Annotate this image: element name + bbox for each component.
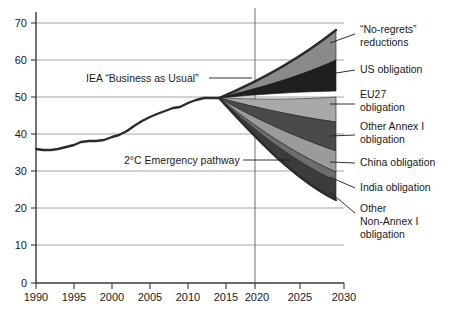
annotation-iea-bau-label: IEA “Business as Usual” — [86, 72, 199, 84]
y-label-40: 40 — [15, 128, 27, 140]
legend-item-india-obligation[interactable]: India obligation — [360, 181, 431, 193]
y-label-30: 30 — [15, 165, 27, 177]
emissions-wedge-chart: 0 10 20 30 40 50 60 70 1990 1995 2000 20… — [0, 0, 455, 312]
x-axis-labels: 1990 1995 2000 2005 2010 2015 2020 2025 … — [24, 291, 356, 303]
legend: “No-regrets” reductions US obligation EU… — [360, 23, 435, 240]
legend-other-annex-i-line2: obligation — [360, 133, 405, 145]
legend-us-obligation-line1: US obligation — [360, 63, 423, 75]
leader-other-non-annex-i — [330, 192, 355, 213]
x-tickmarks — [36, 283, 344, 289]
legend-eu27-line1: EU27 — [360, 88, 386, 100]
annotation-iea-bau: IEA “Business as Usual” — [86, 72, 252, 84]
x-label-1990: 1990 — [24, 291, 48, 303]
y-label-60: 60 — [15, 54, 27, 66]
legend-other-non-annex-i-line1: Other — [360, 202, 387, 214]
annotation-two-degree: 2°C Emergency pathway — [124, 154, 290, 166]
y-label-20: 20 — [15, 202, 27, 214]
legend-item-other-annex-i[interactable]: Other Annex I obligation — [360, 120, 424, 145]
legend-item-no-regrets[interactable]: “No-regrets” reductions — [360, 23, 417, 48]
y-label-50: 50 — [15, 91, 27, 103]
legend-item-other-non-annex-i[interactable]: Other Non-Annex I obligation — [360, 202, 418, 240]
chart-canvas: 0 10 20 30 40 50 60 70 1990 1995 2000 20… — [0, 0, 455, 312]
legend-eu27-line2: obligation — [360, 101, 405, 113]
x-label-2025: 2025 — [288, 291, 312, 303]
legend-other-non-annex-i-line3: obligation — [360, 228, 405, 240]
x-label-2030: 2030 — [332, 291, 356, 303]
y-label-0: 0 — [21, 277, 27, 289]
legend-no-regrets-line1: “No-regrets” — [360, 23, 417, 35]
annotation-two-degree-label: 2°C Emergency pathway — [124, 154, 240, 166]
y-axis-labels: 0 10 20 30 40 50 60 70 — [15, 17, 27, 289]
x-label-1995: 1995 — [62, 291, 86, 303]
y-label-70: 70 — [15, 17, 27, 29]
x-label-2000: 2000 — [100, 291, 124, 303]
legend-other-non-annex-i-line2: Non-Annex I — [360, 215, 418, 227]
x-label-2005: 2005 — [138, 291, 162, 303]
x-label-2015: 2015 — [214, 291, 238, 303]
y-tickmarks — [31, 23, 36, 283]
x-label-2020: 2020 — [245, 291, 269, 303]
legend-item-eu27-obligation[interactable]: EU27 obligation — [360, 88, 405, 113]
historical-emissions-line — [36, 98, 219, 150]
x-label-2010: 2010 — [176, 291, 200, 303]
legend-other-annex-i-line1: Other Annex I — [360, 120, 424, 132]
legend-item-china-obligation[interactable]: China obligation — [360, 156, 435, 168]
wedge-bands — [219, 30, 336, 200]
legend-china-line1: China obligation — [360, 156, 435, 168]
legend-no-regrets-line2: reductions — [360, 36, 408, 48]
y-label-10: 10 — [15, 239, 27, 251]
legend-item-us-obligation[interactable]: US obligation — [360, 63, 423, 75]
legend-india-line1: India obligation — [360, 181, 431, 193]
